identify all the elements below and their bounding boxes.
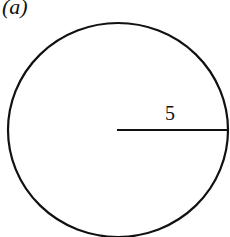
circle-diagram: 5: [0, 0, 230, 237]
radius-label: 5: [165, 102, 175, 124]
